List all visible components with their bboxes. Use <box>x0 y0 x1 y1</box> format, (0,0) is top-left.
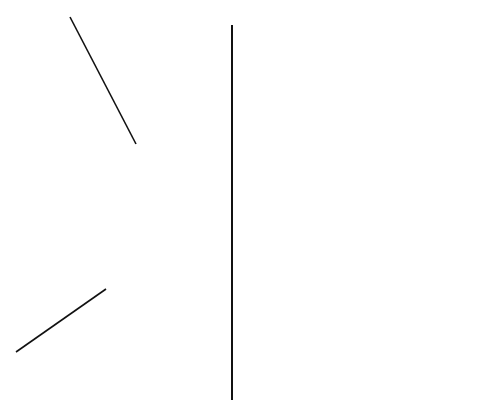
section-line-top <box>70 17 136 144</box>
plan-drawing <box>0 0 501 417</box>
roof-framing-plan <box>0 0 501 417</box>
section-line-bottom <box>16 289 106 352</box>
